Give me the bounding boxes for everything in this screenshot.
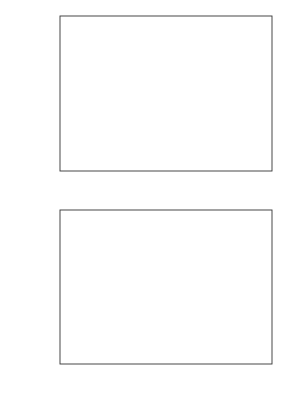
bottom-plot-frame xyxy=(60,210,272,364)
bottom-panel xyxy=(0,0,272,364)
figure xyxy=(0,0,289,407)
top-panel xyxy=(25,16,272,171)
top-plot-frame xyxy=(60,16,272,171)
